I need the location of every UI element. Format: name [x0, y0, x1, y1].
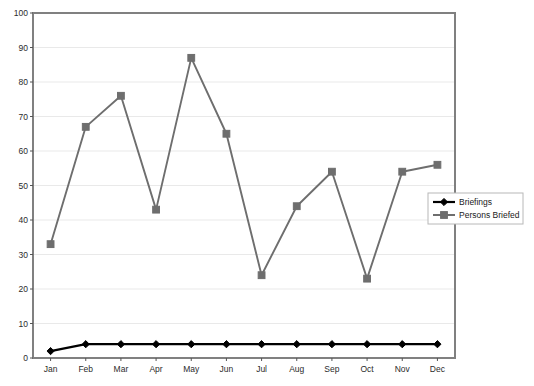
data-point-marker: [329, 168, 336, 175]
chart-legend: BriefingsPersons Briefed: [428, 193, 523, 224]
data-point-marker: [118, 92, 125, 99]
x-axis-tick-label: May: [183, 364, 200, 374]
y-axis-tick-label: 30: [19, 250, 29, 260]
legend-entry-label: Briefings: [459, 197, 492, 207]
x-axis-tick-labels: JanFebMarAprMayJunJulAugSepOctNovDec: [44, 358, 446, 374]
data-point-marker: [47, 241, 54, 248]
legend-entry-label: Persons Briefed: [459, 210, 520, 220]
data-point-marker: [399, 168, 406, 175]
y-axis-tick-label: 50: [19, 181, 29, 191]
data-point-marker: [258, 272, 265, 279]
y-axis-tick-label: 10: [19, 319, 29, 329]
x-axis-tick-label: Dec: [430, 364, 446, 374]
y-axis-tick-labels: 0102030405060708090100: [14, 8, 33, 363]
x-axis-tick-label: Aug: [289, 364, 304, 374]
y-axis-tick-label: 20: [19, 284, 29, 294]
y-axis-tick-label: 70: [19, 112, 29, 122]
data-point-marker: [82, 123, 89, 130]
y-axis-tick-label: 90: [19, 43, 29, 53]
legend-marker-sample: [441, 212, 448, 219]
data-point-marker: [153, 206, 160, 213]
line-chart: 0102030405060708090100 JanFebMarAprMayJu…: [0, 0, 534, 386]
data-point-marker: [434, 161, 441, 168]
x-axis-tick-label: Jul: [256, 364, 267, 374]
y-axis-tick-label: 80: [19, 77, 29, 87]
x-axis-tick-label: Feb: [78, 364, 93, 374]
data-point-marker: [364, 275, 371, 282]
x-axis-tick-label: Jan: [44, 364, 58, 374]
y-axis-tick-label: 0: [23, 353, 28, 363]
y-axis-tick-label: 100: [14, 8, 28, 18]
y-axis-tick-label: 60: [19, 146, 29, 156]
data-point-marker: [188, 54, 195, 61]
x-axis-tick-label: Apr: [149, 364, 162, 374]
x-axis-tick-label: Oct: [360, 364, 374, 374]
x-axis-tick-label: Mar: [114, 364, 129, 374]
x-axis-tick-label: Jun: [220, 364, 234, 374]
data-point-marker: [223, 130, 230, 137]
x-axis-tick-label: Nov: [395, 364, 411, 374]
y-axis-tick-label: 40: [19, 215, 29, 225]
x-axis-tick-label: Sep: [324, 364, 339, 374]
data-point-marker: [293, 203, 300, 210]
chart-canvas: 0102030405060708090100 JanFebMarAprMayJu…: [0, 0, 534, 386]
